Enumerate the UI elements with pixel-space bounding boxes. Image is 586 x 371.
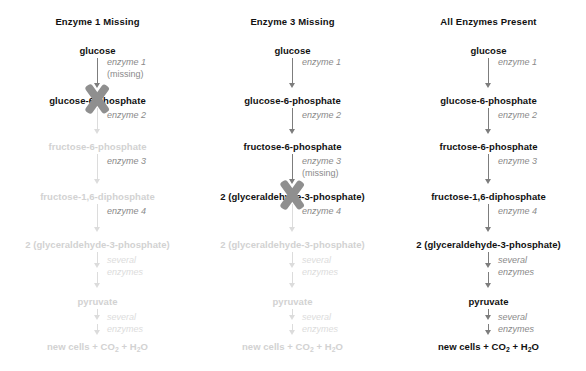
- reaction-arrow: [484, 252, 493, 268]
- metabolite-node: fructose-6-phosphate: [391, 140, 586, 153]
- reaction-arrow: [288, 154, 297, 184]
- enzyme-label: enzyme 1: [302, 56, 341, 68]
- reaction-arrow: [93, 309, 102, 320]
- enzyme-label-line1: enzyme 2: [107, 109, 146, 121]
- reaction-arrow: [93, 154, 102, 184]
- enzyme-label-line2: enzymes: [302, 266, 338, 278]
- metabolite-node: fructose-1,6-diphosphate: [0, 190, 195, 203]
- enzyme-label-line1: enzyme 1: [302, 56, 341, 68]
- enzyme-label: enzyme 3: [107, 155, 146, 167]
- enzyme-label-line1: enzyme 3: [302, 155, 341, 167]
- enzyme-label-line2: enzymes: [107, 323, 143, 335]
- metabolite-node: fructose-6-phosphate: [195, 140, 390, 153]
- metabolite-node: fructose-6-phosphate: [0, 140, 195, 153]
- metabolite-node: glucose: [0, 44, 195, 57]
- reaction-arrow: [484, 324, 493, 335]
- enzyme-missing-note: (missing): [107, 68, 146, 80]
- enzyme-label: severalenzymes: [498, 254, 534, 278]
- reaction-arrow: [93, 272, 102, 288]
- enzyme-label-line1: several: [498, 254, 534, 266]
- column-title: Enzyme 1 Missing: [55, 16, 139, 27]
- metabolite-node: pyruvate: [0, 295, 195, 308]
- metabolite-node: pyruvate: [391, 295, 586, 308]
- metabolite-node: new cells + CO2 + H2O: [195, 340, 390, 356]
- enzyme-label: enzyme 4: [107, 205, 146, 217]
- metabolite-node: glucose: [195, 44, 390, 57]
- enzyme-label-line2: enzymes: [107, 266, 143, 278]
- enzyme-label: enzyme 3: [498, 155, 537, 167]
- reaction-arrow: [484, 108, 493, 134]
- column-title: Enzyme 3 Missing: [250, 16, 334, 27]
- enzyme-label: severalenzymes: [302, 311, 338, 335]
- metabolite-node: glucose-6-phosphate: [195, 94, 390, 107]
- reaction-arrow: [484, 309, 493, 320]
- reaction-arrow: [288, 204, 297, 232]
- pathway-column-1: Enzyme 3 Missingglucoseglucose-6-phospha…: [195, 0, 390, 371]
- column-title: All Enzymes Present: [440, 16, 536, 27]
- enzyme-label: enzyme 2: [302, 109, 341, 121]
- enzyme-label: enzyme 3(missing): [302, 155, 341, 179]
- enzyme-label: enzyme 2: [498, 109, 537, 121]
- enzyme-label-line1: enzyme 2: [498, 109, 537, 121]
- metabolite-node: glucose-6-phosphate: [0, 94, 195, 107]
- reaction-arrow: [288, 272, 297, 288]
- metabolite-node: glucose-6-phosphate: [391, 94, 586, 107]
- metabolite-node: 2 (glyceraldehyde-3-phosphate): [195, 238, 390, 251]
- enzyme-missing-note: (missing): [302, 167, 341, 179]
- reaction-arrow: [484, 154, 493, 184]
- pathway-column-0: Enzyme 1 Missingglucoseglucose-6-phospha…: [0, 0, 195, 371]
- pathway-diagram: Enzyme 1 Missingglucoseglucose-6-phospha…: [0, 0, 586, 371]
- reaction-arrow: [288, 252, 297, 268]
- enzyme-label-line1: enzyme 4: [498, 205, 537, 217]
- reaction-arrow: [288, 324, 297, 335]
- enzyme-label: severalenzymes: [107, 311, 143, 335]
- enzyme-label-line1: several: [302, 254, 338, 266]
- metabolite-node: fructose-1,6-diphosphate: [391, 190, 586, 203]
- enzyme-label-line2: enzymes: [498, 323, 534, 335]
- reaction-arrow: [484, 272, 493, 288]
- metabolite-node: new cells + CO2 + H2O: [391, 340, 586, 356]
- metabolite-node: pyruvate: [195, 295, 390, 308]
- enzyme-label-line1: several: [302, 311, 338, 323]
- enzyme-label-line1: enzyme 1: [498, 56, 537, 68]
- enzyme-label: enzyme 4: [498, 205, 537, 217]
- pathway-column-2: All Enzymes Presentglucoseglucose-6-phos…: [391, 0, 586, 371]
- enzyme-label-line2: enzymes: [302, 323, 338, 335]
- reaction-arrow: [288, 58, 297, 88]
- reaction-arrow: [93, 204, 102, 232]
- enzyme-label: severalenzymes: [498, 311, 534, 335]
- reaction-arrow: [93, 252, 102, 268]
- enzyme-label: enzyme 4: [302, 205, 341, 217]
- reaction-arrow: [93, 324, 102, 335]
- reaction-arrow: [288, 309, 297, 320]
- reaction-arrow: [93, 58, 102, 88]
- enzyme-label-line1: several: [107, 254, 143, 266]
- enzyme-label-line2: enzymes: [498, 266, 534, 278]
- enzyme-label-line1: several: [107, 311, 143, 323]
- reaction-arrow: [93, 108, 102, 134]
- metabolite-node: 2 (glyceraldehyde-3-phosphate): [0, 238, 195, 251]
- metabolite-node: glucose: [391, 44, 586, 57]
- enzyme-label-line1: enzyme 4: [302, 205, 341, 217]
- enzyme-label-line1: enzyme 1: [107, 56, 146, 68]
- enzyme-label: enzyme 1: [498, 56, 537, 68]
- metabolite-node: new cells + CO2 + H2O: [0, 340, 195, 356]
- reaction-arrow: [484, 204, 493, 232]
- enzyme-label: enzyme 2: [107, 109, 146, 121]
- metabolite-node: 2 (glyceraldehyde-3-phosphate): [391, 238, 586, 251]
- enzyme-label-line1: enzyme 4: [107, 205, 146, 217]
- reaction-arrow: [288, 108, 297, 134]
- enzyme-label-line1: several: [498, 311, 534, 323]
- enzyme-label: severalenzymes: [107, 254, 143, 278]
- enzyme-label-line1: enzyme 3: [107, 155, 146, 167]
- metabolite-node: 2 (glyceraldehyde-3-phosphate): [195, 190, 390, 203]
- enzyme-label: enzyme 1(missing): [107, 56, 146, 80]
- reaction-arrow: [484, 58, 493, 88]
- enzyme-label-line1: enzyme 2: [302, 109, 341, 121]
- enzyme-label-line1: enzyme 3: [498, 155, 537, 167]
- enzyme-label: severalenzymes: [302, 254, 338, 278]
